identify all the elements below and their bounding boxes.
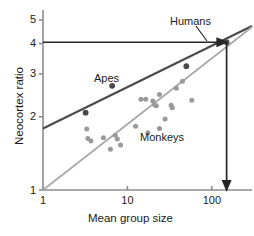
data-point-monkeys xyxy=(170,105,175,110)
y-tick-label: 3 xyxy=(30,68,36,79)
monkeys-regression-line xyxy=(43,27,252,190)
trendlines-group xyxy=(43,26,252,190)
x-tick-label: 10 xyxy=(121,195,133,206)
monkeys-label: Monkeys xyxy=(140,132,184,143)
data-point-monkeys xyxy=(108,147,113,152)
leader-lines-group xyxy=(196,26,207,41)
humans-label-leader-line xyxy=(196,26,207,41)
y-tick-label: 2 xyxy=(30,111,36,122)
data-point-monkeys xyxy=(101,135,106,140)
y-tick-label: 1 xyxy=(30,185,36,196)
data-point-monkeys xyxy=(118,143,123,148)
data-point-monkeys xyxy=(154,103,159,108)
x-tick-label: 100 xyxy=(203,195,221,206)
data-point-monkeys xyxy=(163,116,168,121)
data-point-monkeys xyxy=(143,97,148,102)
data-point-apes xyxy=(83,110,89,116)
data-point-monkeys xyxy=(180,79,185,84)
x-tick-label: 1 xyxy=(40,195,46,206)
y-tick-label: 5 xyxy=(30,14,36,25)
data-point-monkeys xyxy=(157,92,162,97)
chart-container: 1 2 3 4 5 1 10 100 Mean group size Neoco… xyxy=(0,0,254,236)
y-axis-title: Neocortex ratio xyxy=(14,67,26,145)
data-point-apes xyxy=(183,63,189,69)
data-point-monkeys xyxy=(174,86,179,91)
x-axis-title: Mean group size xyxy=(88,213,173,225)
data-point-monkeys xyxy=(84,127,89,132)
y-tick-label: 4 xyxy=(30,38,36,49)
data-point-monkeys xyxy=(133,124,138,129)
data-point-monkeys xyxy=(189,98,194,103)
humans-label: Humans xyxy=(170,16,211,27)
data-point-monkeys xyxy=(138,97,143,102)
data-point-monkeys xyxy=(88,139,93,144)
data-point-monkeys xyxy=(115,137,120,142)
apes-label: Apes xyxy=(94,73,119,84)
